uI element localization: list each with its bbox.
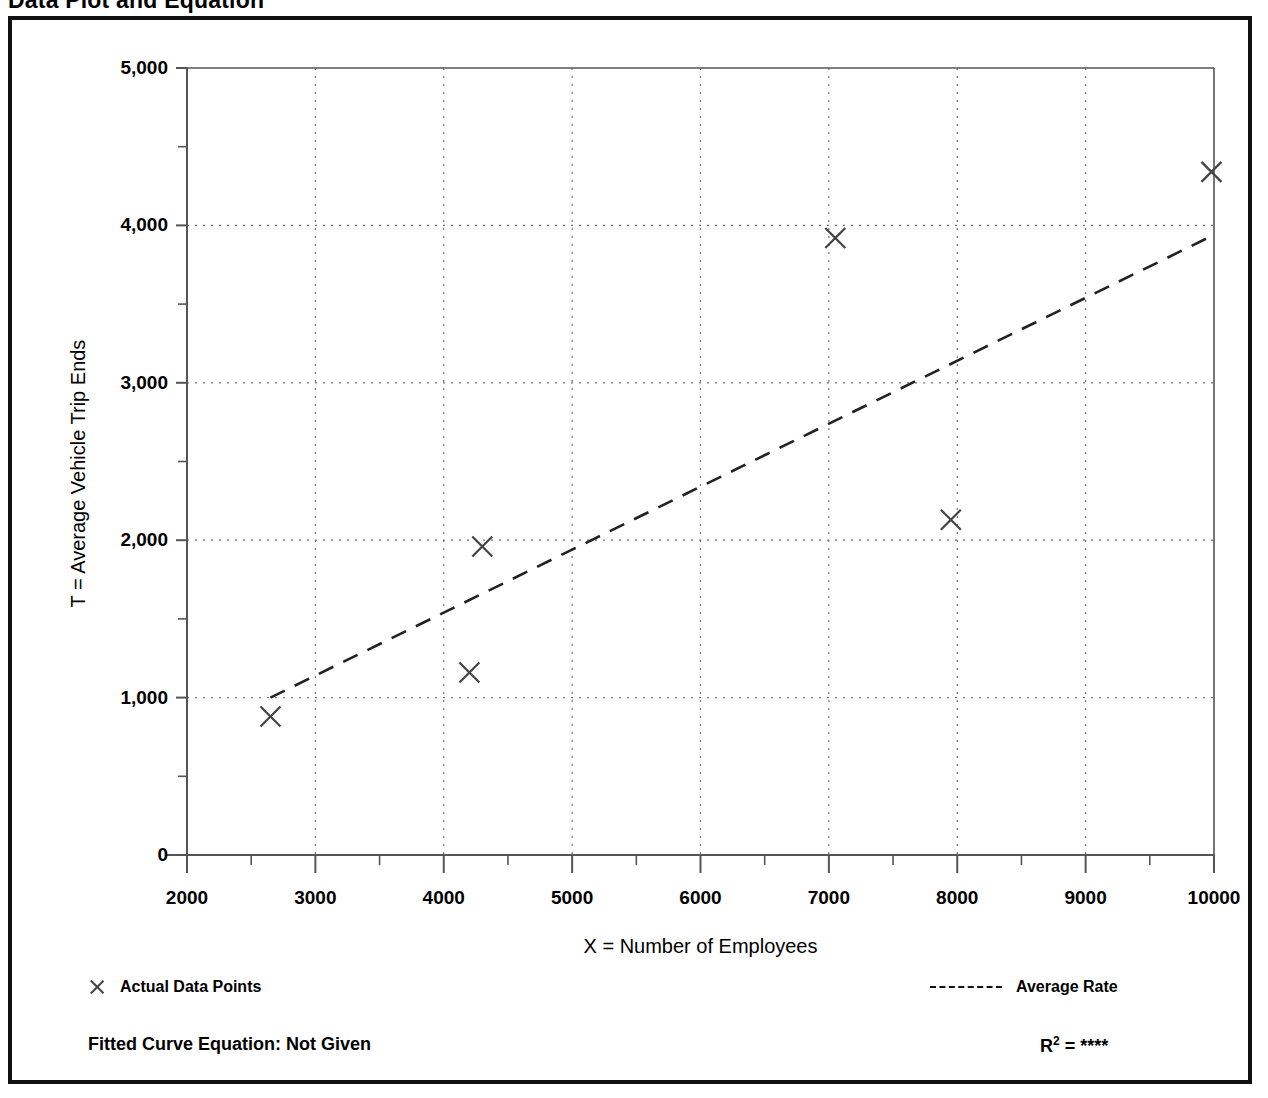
x-axis-tick-label: 3000 — [260, 887, 370, 909]
legend-item-average-rate[interactable]: Average Rate — [930, 978, 1118, 996]
x-axis-tick-label: 5000 — [517, 887, 627, 909]
y-axis-tick-label: 0 — [73, 844, 168, 866]
x-axis-tick-label: 7000 — [774, 887, 884, 909]
y-axis-tick-label: 5,000 — [73, 57, 168, 79]
chart-footer: Fitted Curve Equation: Not Given R2 = **… — [0, 1034, 1268, 1064]
x-axis-tick-label: 6000 — [646, 887, 756, 909]
x-axis-tick-label: 10000 — [1159, 887, 1268, 909]
r-squared-exponent: 2 — [1053, 1034, 1060, 1048]
legend-label-actual-data-points: Actual Data Points — [120, 978, 261, 996]
x-axis-tick-label: 9000 — [1031, 887, 1141, 909]
fitted-curve-equation: Fitted Curve Equation: Not Given — [88, 1034, 371, 1055]
dashed-line-icon — [930, 986, 1002, 988]
chart-legend: Actual Data Points Average Rate — [0, 978, 1268, 1008]
x-axis-title: X = Number of Employees — [187, 935, 1214, 958]
r-squared-prefix: R — [1040, 1036, 1053, 1056]
y-axis-tick-label: 4,000 — [73, 214, 168, 236]
y-axis-title: T = Average Vehicle Trip Ends — [67, 244, 90, 704]
x-axis-tick-label: 8000 — [902, 887, 1012, 909]
legend-item-actual-data-points[interactable]: Actual Data Points — [88, 978, 261, 996]
x-axis-tick-label: 2000 — [132, 887, 242, 909]
x-axis-tick-label: 4000 — [389, 887, 499, 909]
legend-label-average-rate: Average Rate — [1016, 978, 1118, 996]
x-marker-icon — [88, 978, 106, 996]
figure-frame — [8, 16, 1252, 1084]
r-squared-equals: = **** — [1060, 1036, 1109, 1056]
page-title: Data Plot and Equation — [8, 0, 264, 14]
r-squared-value: R2 = **** — [1040, 1034, 1108, 1057]
